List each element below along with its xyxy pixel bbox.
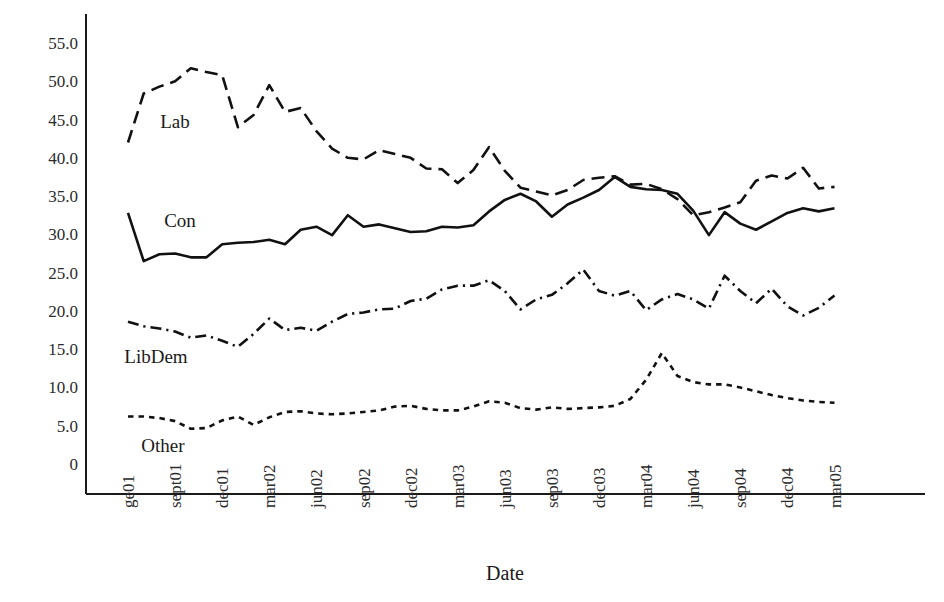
y-tick-label: 45.0 [48,111,78,130]
x-tick-label: dec04 [778,467,797,508]
x-tick-label: dec01 [213,467,232,508]
series-label-con: Con [164,210,196,231]
x-tick-label: mar04 [637,464,656,508]
y-tick-label: 20.0 [48,302,78,321]
x-tick-label: sep04 [731,468,750,508]
x-tick-label: jun02 [307,469,326,509]
x-tick-label: ge01 [119,475,138,508]
x-tick-label: jun03 [496,469,515,509]
y-tick-label: 50.0 [48,72,78,91]
y-tick-label: 25.0 [48,264,78,283]
series-line-other [128,353,835,429]
x-tick-label: dec02 [402,467,421,508]
x-tick-label: jun04 [684,469,703,509]
series-line-lab [128,68,835,215]
x-tick-label: sep03 [543,468,562,508]
series-label-libdem: LibDem [124,346,188,367]
series-label-lab: Lab [160,111,190,132]
y-tick-label: 0 [70,455,79,474]
y-tick-label: 35.0 [48,187,78,206]
y-tick-label: 30.0 [48,225,78,244]
y-tick-label: 40.0 [48,149,78,168]
x-tick-label: mar05 [826,465,845,508]
x-tick-label: mar03 [449,465,468,508]
series-label-other: Other [141,435,185,456]
series-inline-labels: LabConLibDemOther [124,111,196,456]
x-tick-label: dec03 [590,467,609,508]
x-tick-label: sep02 [355,468,374,508]
chart-container: 05.010.015.020.025.030.035.040.045.050.0… [0,0,944,602]
x-tick-label: sept01 [166,464,185,508]
y-tick-label: 10.0 [48,378,78,397]
data-series-group [128,68,835,429]
x-tick-label: mar02 [260,465,279,508]
y-axis-tick-labels: 05.010.015.020.025.030.035.040.045.050.0… [48,34,78,474]
series-line-libdem [128,270,835,347]
y-tick-label: 15.0 [48,340,78,359]
line-chart: 05.010.015.020.025.030.035.040.045.050.0… [0,0,944,602]
y-tick-label: 5.0 [57,417,78,436]
x-axis-title: Date [486,562,524,584]
series-line-con [128,177,835,261]
y-tick-label: 55.0 [48,34,78,53]
x-axis-tick-labels: ge01sept01dec01mar02jun02sep02dec02mar03… [119,464,845,509]
